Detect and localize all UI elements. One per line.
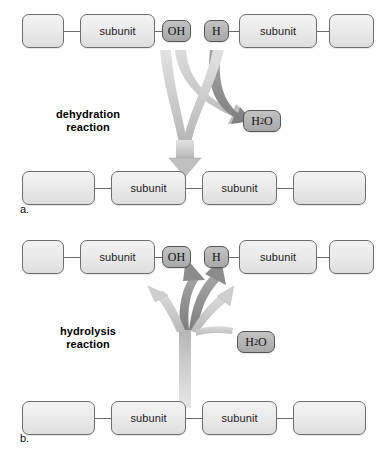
bond-line bbox=[95, 188, 111, 189]
panel-letter-a: a. bbox=[20, 203, 29, 215]
reaction-label-line-2: reaction bbox=[36, 338, 140, 351]
chain-end-box bbox=[329, 14, 374, 48]
bond-line bbox=[229, 257, 239, 258]
subunit-box: subunit bbox=[239, 240, 317, 274]
bond-line bbox=[277, 188, 293, 189]
subunit-box: subunit bbox=[111, 401, 186, 435]
subunit-box: subunit bbox=[80, 240, 155, 274]
bond-line bbox=[277, 418, 293, 419]
bond-line bbox=[155, 257, 162, 258]
water-formula-o: O bbox=[258, 335, 267, 350]
reaction-arrows-layer bbox=[0, 0, 389, 455]
subunit-box: subunit bbox=[202, 171, 277, 205]
bond-line bbox=[64, 31, 80, 32]
bond-line bbox=[64, 257, 80, 258]
water-molecule-box-a: H2O bbox=[243, 110, 281, 132]
chain-end-box bbox=[22, 240, 64, 274]
subunit-box: subunit bbox=[239, 14, 317, 48]
water-molecule-box-b: H2O bbox=[237, 331, 275, 353]
bond-line bbox=[317, 31, 329, 32]
bond-line bbox=[186, 418, 202, 419]
chain-end-box bbox=[22, 401, 95, 435]
arrow-b-main-shaft bbox=[179, 330, 191, 408]
chain-end-box bbox=[293, 401, 366, 435]
dehydration-reaction-label: dehydration reaction bbox=[32, 108, 144, 134]
bond-line bbox=[229, 31, 239, 32]
panel-b-reactant-row: subunit subunit bbox=[22, 401, 366, 435]
subunit-box: subunit bbox=[202, 401, 277, 435]
reaction-label-line-1: dehydration bbox=[32, 108, 144, 121]
dehydration-arrow-group bbox=[160, 50, 254, 177]
panel-a-product-row: subunit subunit bbox=[22, 171, 366, 205]
water-formula-o: O bbox=[264, 114, 273, 129]
subunit-box: subunit bbox=[80, 14, 155, 48]
subunit-box: subunit bbox=[111, 171, 186, 205]
reaction-label-line-1: hydrolysis bbox=[36, 325, 140, 338]
panel-b-product-row: subunit OH H subunit bbox=[22, 240, 374, 274]
hydrogen-group-box: H bbox=[204, 20, 229, 42]
panel-a-reactant-row: subunit OH H subunit bbox=[22, 14, 374, 48]
hydrogen-group-box: H bbox=[204, 246, 229, 268]
hydrolysis-arrow-group bbox=[148, 258, 234, 408]
reaction-label-line-2: reaction bbox=[32, 121, 144, 134]
chain-end-box bbox=[22, 171, 95, 205]
hydrolysis-reaction-label: hydrolysis reaction bbox=[36, 325, 140, 351]
chain-end-box bbox=[293, 171, 366, 205]
hydroxyl-group-box: OH bbox=[162, 20, 191, 42]
arrow-main-shaft bbox=[176, 140, 194, 160]
bond-line bbox=[155, 31, 162, 32]
bond-line bbox=[186, 188, 202, 189]
hydroxyl-group-box: OH bbox=[162, 246, 191, 268]
figure-canvas: subunit OH H subunit dehydration reactio… bbox=[0, 0, 389, 455]
water-formula-h: H bbox=[245, 335, 254, 350]
chain-end-box bbox=[329, 240, 374, 274]
bond-line bbox=[317, 257, 329, 258]
bond-line bbox=[95, 418, 111, 419]
chain-end-box bbox=[22, 14, 64, 48]
panel-letter-b: b. bbox=[20, 432, 29, 444]
water-formula-h: H bbox=[251, 114, 260, 129]
